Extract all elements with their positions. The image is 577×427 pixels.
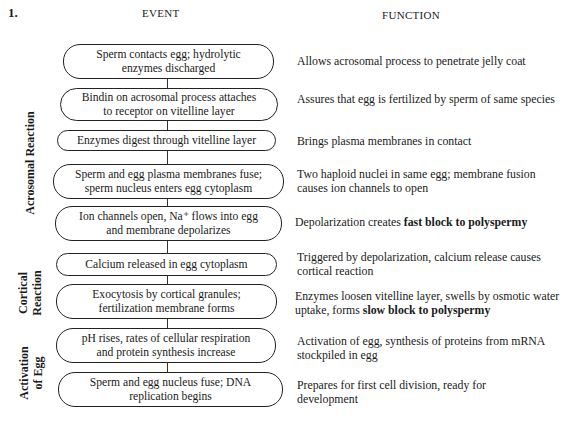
phase-label-line: Cortical — [16, 263, 30, 323]
event-text-line: enzymes discharged — [96, 62, 241, 76]
event-box-calcium-released: Calcium released in egg cytoplasm — [56, 253, 277, 276]
function-text-5: Depolarization creates fast block to pol… — [295, 215, 571, 229]
event-box-enzymes-digest: Enzymes digest through vitelline layer — [57, 130, 276, 151]
connector-line — [167, 362, 168, 372]
function-text: Depolarization creates — [295, 215, 404, 229]
figure-number: 1. — [8, 5, 18, 21]
event-box-ph-rises: pH rises, rates of cellular respirationa… — [56, 328, 276, 363]
event-text-line: Calcium released in egg cytoplasm — [85, 258, 247, 272]
function-text-3: Brings plasma membranes in contact — [297, 134, 573, 148]
function-text: Triggered by depolarization, calcium rel… — [297, 250, 541, 278]
event-box-membranes-fuse: Sperm and egg plasma membranes fuse;sper… — [53, 164, 284, 199]
event-text-line: replication begins — [90, 390, 251, 404]
event-box-sperm-contacts-egg: Sperm contacts egg; hydrolyticenzymes di… — [63, 44, 274, 79]
event-text-line: Ion channels open, Na⁺ flows into egg — [79, 210, 258, 224]
function-text-2: Assures that egg is fertilized by sperm … — [297, 92, 557, 106]
event-text-line: pH rises, rates of cellular respiration — [82, 332, 251, 346]
event-text-line: Bindin on acrosomal process attaches — [82, 91, 257, 105]
phase-label-line: of Egg — [31, 338, 45, 408]
event-text-line: to receptor on vitelline layer — [82, 105, 257, 119]
function-column-header: FUNCTION — [382, 9, 440, 21]
phase-label-acrosomal-reaction: Acrosomal Reaction — [23, 93, 37, 233]
function-text: Assures that egg is fertilized by sperm … — [297, 92, 555, 106]
event-text-line: and membrane depolarizes — [79, 224, 258, 238]
event-text-line: Sperm contacts egg; hydrolytic — [96, 48, 241, 62]
connector-line — [167, 240, 168, 253]
event-text-line: sperm nucleus enters egg cytoplasm — [75, 182, 262, 196]
event-text-line: Enzymes digest through vitelline layer — [77, 134, 256, 148]
function-text-8: Activation of egg, synthesis of proteins… — [297, 334, 547, 362]
function-text: Prepares for first cell division, ready … — [297, 378, 486, 406]
event-box-ion-channels-open: Ion channels open, Na⁺ flows into eggand… — [55, 206, 282, 241]
function-text-6: Triggered by depolarization, calcium rel… — [297, 250, 547, 278]
function-text-1: Allows acrosomal process to penetrate je… — [297, 54, 573, 68]
phase-label-line: Reaction — [30, 263, 44, 323]
function-text-emphasis: fast block to polyspermy — [404, 215, 528, 229]
phase-label-cortical-reaction: Cortical Reaction — [16, 263, 44, 323]
event-box-nucleus-fuse: Sperm and egg nucleus fuse; DNAreplicati… — [58, 372, 283, 407]
function-text: Brings plasma membranes in contact — [297, 134, 471, 148]
event-box-exocytosis: Exocytosis by cortical granules;fertiliz… — [56, 284, 277, 319]
function-text-7: Enzymes loosen vitelline layer, swells b… — [295, 289, 571, 317]
function-text-4: Two haploid nuclei in same egg; membrane… — [297, 167, 547, 195]
function-text: Allows acrosomal process to penetrate je… — [297, 54, 526, 68]
phase-label-line: Activation — [17, 338, 31, 408]
connector-line — [167, 150, 168, 165]
event-text-line: and protein synthesis increase — [82, 346, 251, 360]
event-text-line: Sperm and egg nucleus fuse; DNA — [90, 376, 251, 390]
function-text-emphasis: slow block to polyspermy — [363, 303, 490, 317]
event-column-header: EVENT — [142, 7, 180, 19]
event-box-bindin-attaches: Bindin on acrosomal process attachesto r… — [60, 88, 278, 121]
function-text: Two haploid nuclei in same egg; membrane… — [297, 167, 536, 195]
function-text-9: Prepares for first cell division, ready … — [297, 378, 537, 406]
function-text: Activation of egg, synthesis of proteins… — [297, 334, 545, 362]
event-text-line: Sperm and egg plasma membranes fuse; — [75, 168, 262, 182]
event-text-line: Exocytosis by cortical granules; — [92, 288, 240, 302]
event-text-line: fertilization membrane forms — [92, 302, 240, 316]
phase-label-activation-of-egg: Activation of Egg — [17, 338, 45, 408]
